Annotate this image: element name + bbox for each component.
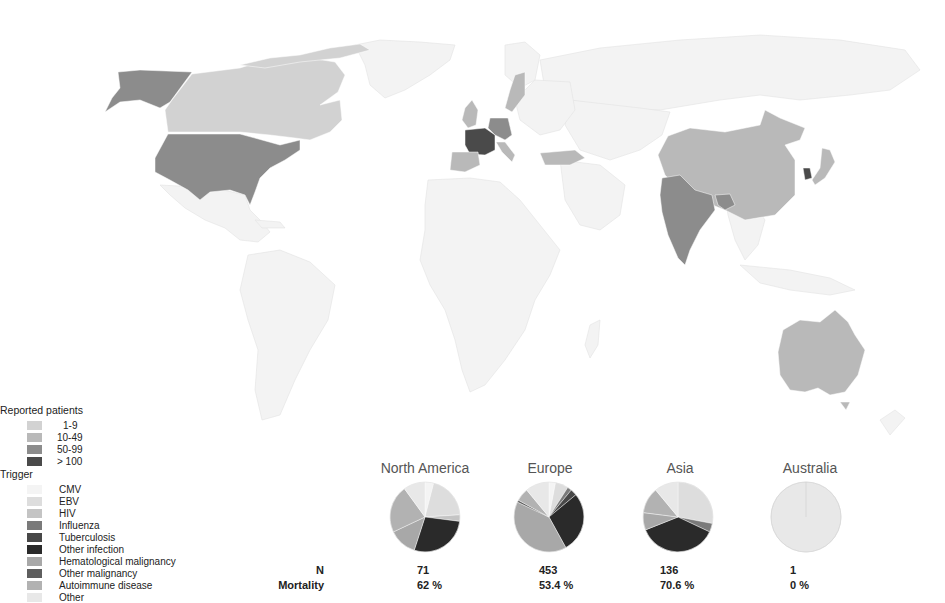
- trigger-legend-item: HIV: [0, 507, 176, 519]
- italy: [496, 142, 515, 162]
- legend-swatch-icon: [27, 457, 42, 466]
- pie-slice: [678, 482, 713, 524]
- legend-label: 1-9: [63, 420, 77, 431]
- legend-swatch-icon: [27, 581, 42, 590]
- trigger-legend-item: EBV: [0, 495, 176, 507]
- trigger-legend-item: Other malignancy: [0, 567, 176, 579]
- legend-swatch-icon: [27, 485, 42, 494]
- n-europe: 453: [539, 564, 557, 576]
- japan: [812, 148, 835, 185]
- patients-legend-title: Reported patients: [0, 404, 83, 416]
- trigger-legend: Trigger CMVEBVHIVInfluenzaTuberculosisOt…: [0, 468, 176, 603]
- patients-legend-item: 10-49: [0, 431, 83, 443]
- n-north-america: 71: [417, 564, 429, 576]
- legend-label: Tuberculosis: [59, 532, 115, 543]
- south-america: [240, 250, 335, 420]
- trigger-legend-item: Influenza: [0, 519, 176, 531]
- new-zealand: [880, 410, 905, 435]
- legend-swatch-icon: [27, 433, 42, 442]
- africa: [420, 178, 560, 392]
- patients-legend: Reported patients 1-910-4950-99> 100: [0, 404, 83, 467]
- mortality-australia: 0 %: [790, 579, 809, 591]
- legend-label: 50-99: [57, 444, 83, 455]
- legend-label: > 100: [57, 456, 82, 467]
- legend-swatch-icon: [27, 445, 42, 454]
- legend-label: CMV: [59, 484, 81, 495]
- mortality-north-america: 62 %: [417, 579, 442, 591]
- legend-swatch-icon: [27, 421, 42, 430]
- south-korea: [803, 168, 812, 180]
- pie-north-america: [388, 480, 462, 554]
- legend-swatch-icon: [27, 569, 42, 578]
- legend-swatch-icon: [27, 545, 42, 554]
- legend-swatch-icon: [27, 557, 42, 566]
- mortality-asia: 70.6 %: [660, 579, 694, 591]
- legend-swatch-icon: [27, 533, 42, 542]
- trigger-legend-item: Other: [0, 591, 176, 603]
- trigger-legend-item: Tuberculosis: [0, 531, 176, 543]
- legend-swatch-icon: [27, 509, 42, 518]
- pie-europe: [512, 480, 586, 554]
- legend-label: Hematological malignancy: [59, 556, 176, 567]
- n-asia: 136: [660, 564, 678, 576]
- middle-east: [560, 160, 625, 230]
- australia: [778, 310, 865, 395]
- pie-australia: [769, 480, 843, 554]
- trigger-legend-item: Other infection: [0, 543, 176, 555]
- legend-swatch-icon: [27, 521, 42, 530]
- region-title-europe: Europe: [480, 460, 620, 476]
- mortality-europe: 53.4 %: [539, 579, 573, 591]
- n-australia: 1: [790, 564, 796, 576]
- legend-label: Influenza: [59, 520, 100, 531]
- legend-label: Other infection: [59, 544, 124, 555]
- legend-swatch-icon: [27, 593, 42, 602]
- tasmania: [840, 402, 850, 410]
- legend-swatch-icon: [27, 497, 42, 506]
- pie-asia: [641, 480, 715, 554]
- united-kingdom: [462, 100, 478, 128]
- legend-label: Other malignancy: [59, 568, 137, 579]
- region-title-asia: Asia: [610, 460, 750, 476]
- france: [465, 128, 495, 155]
- canada: [165, 58, 345, 140]
- trigger-legend-title: Trigger: [0, 468, 176, 480]
- patients-legend-item: 50-99: [0, 443, 83, 455]
- legend-label: Autoimmune disease: [59, 580, 152, 591]
- legend-label: HIV: [59, 508, 76, 519]
- patients-legend-item: > 100: [0, 455, 83, 467]
- n-label: N: [244, 564, 324, 576]
- trigger-legend-item: Autoimmune disease: [0, 579, 176, 591]
- legend-label: Other: [59, 592, 84, 603]
- madagascar: [585, 320, 600, 358]
- greenland: [355, 40, 455, 98]
- trigger-legend-item: Hematological malignancy: [0, 555, 176, 567]
- russia: [540, 35, 920, 110]
- trigger-legend-item: CMV: [0, 483, 176, 495]
- spain: [450, 152, 480, 172]
- region-title-australia: Australia: [740, 460, 880, 476]
- indonesia: [740, 265, 855, 295]
- mortality-label: Mortality: [244, 579, 324, 591]
- region-title-north-america: North America: [355, 460, 495, 476]
- legend-label: 10-49: [57, 432, 83, 443]
- legend-label: EBV: [59, 496, 79, 507]
- patients-legend-item: 1-9: [0, 419, 83, 431]
